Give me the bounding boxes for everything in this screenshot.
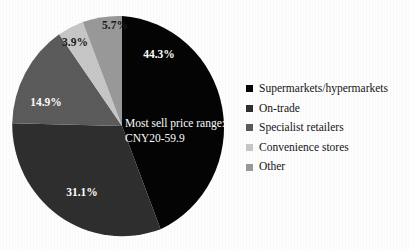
legend-item-label: Other [259,161,285,173]
legend-item-label: Specialist retailers [259,122,344,134]
legend-item-convenience-stores[interactable]: Convenience stores [246,138,406,158]
legend-item-on-trade[interactable]: On-trade [246,99,406,119]
chart-legend: Supermarkets/hypermarkets On-trade Speci… [246,79,406,177]
pie-label-convenience-stores: 3.9% [62,36,88,48]
legend-swatch-icon [246,164,253,171]
legend-item-other[interactable]: Other [246,157,406,177]
legend-item-supermarkets-hypermarkets[interactable]: Supermarkets/hypermarkets [246,79,406,99]
pie-chart-figure: 44.3% 31.1% 14.9% 3.9% 5.7% Most sell pr… [0,0,409,250]
pie-label-other: 5.7% [102,19,128,31]
pie-label-specialist-retailers: 14.9% [30,96,62,108]
pie-chart-plot-area: 44.3% 31.1% 14.9% 3.9% 5.7% Most sell pr… [11,14,233,238]
legend-swatch-icon [246,105,253,112]
annotation-line-2: CNY20-59.9 [125,132,185,144]
pie-label-supermarkets-hypermarkets: 44.3% [143,48,175,60]
annotation-line-1: Most sell price range: [125,117,225,130]
pie-svg: 44.3% 31.1% 14.9% 3.9% 5.7% Most sell pr… [11,14,233,238]
legend-item-specialist-retailers[interactable]: Specialist retailers [246,118,406,138]
legend-item-label: Convenience stores [259,142,349,154]
legend-swatch-icon [246,124,253,131]
legend-item-label: On-trade [259,103,300,115]
legend-item-label: Supermarkets/hypermarkets [259,83,388,95]
legend-swatch-icon [246,144,253,151]
legend-swatch-icon [246,85,253,92]
pie-label-on-trade: 31.1% [66,186,98,198]
